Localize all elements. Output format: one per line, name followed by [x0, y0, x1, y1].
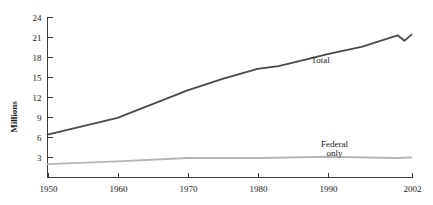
x-tick-label: 1950 — [40, 184, 59, 194]
y-tick-label-group: 3691215182124 — [33, 13, 43, 163]
x-tick-label: 1990 — [320, 184, 339, 194]
y-axis-title: Millions — [9, 101, 19, 133]
series-line-federal-only — [48, 157, 412, 164]
x-tick-label: 2002 — [404, 184, 422, 194]
y-tick-group — [48, 18, 53, 158]
y-tick-label: 6 — [37, 133, 42, 143]
chart-container: 3691215182124 Millions 19501960197019801… — [0, 0, 433, 205]
y-tick-label: 12 — [33, 93, 42, 103]
y-tick-label: 3 — [37, 153, 42, 163]
x-tick-label: 1980 — [250, 184, 269, 194]
series-group — [48, 35, 412, 164]
y-tick-label: 21 — [33, 33, 42, 43]
series-annotations: Total Federal only — [311, 55, 348, 158]
y-tick-label: 24 — [33, 13, 43, 23]
x-tick-label: 1970 — [180, 184, 199, 194]
line-chart: 3691215182124 Millions 19501960197019801… — [0, 0, 433, 205]
series-line-total — [48, 35, 412, 135]
x-tick-group — [49, 173, 413, 178]
series-label-federal-line2: only — [326, 148, 343, 158]
y-tick-label: 9 — [37, 113, 42, 123]
x-tick-label: 1960 — [110, 184, 129, 194]
y-tick-label: 18 — [33, 53, 43, 63]
series-label-total: Total — [311, 55, 330, 65]
y-tick-label: 15 — [33, 73, 43, 83]
x-axis: 195019601970198019902002 — [40, 173, 422, 194]
y-axis: 3691215182124 Millions — [9, 13, 53, 178]
x-tick-label-group: 195019601970198019902002 — [40, 184, 422, 194]
